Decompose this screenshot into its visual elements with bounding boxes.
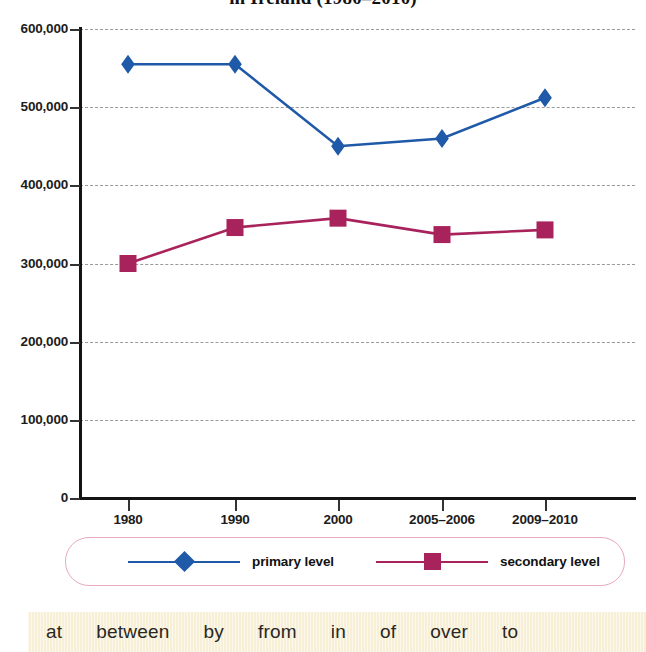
diamond-marker-icon — [228, 55, 242, 74]
series-secondary — [120, 210, 554, 272]
word-bank-item[interactable]: of — [380, 621, 396, 643]
word-bank-item[interactable]: in — [331, 621, 346, 643]
diamond-marker-icon — [173, 551, 194, 572]
legend-entry-secondary: secondary level — [376, 538, 600, 585]
series-line — [128, 64, 545, 146]
series-primary — [121, 55, 552, 156]
word-bank-item[interactable]: from — [258, 621, 297, 643]
square-marker-icon — [424, 553, 441, 570]
word-bank: atbetweenbyfrominofoverto — [28, 612, 646, 652]
word-bank-item[interactable]: between — [96, 621, 169, 643]
word-bank-item[interactable]: at — [46, 621, 62, 643]
line-chart-figure: 0100,000200,000300,000400,000500,000600,… — [0, 0, 646, 596]
diamond-marker-icon — [121, 55, 135, 74]
square-marker-icon — [537, 221, 554, 238]
square-marker-icon — [330, 210, 347, 227]
legend-swatch-secondary — [376, 552, 488, 572]
word-bank-item[interactable]: by — [204, 621, 224, 643]
chart-legend: primary level secondary level — [65, 537, 625, 586]
diamond-marker-icon — [435, 129, 449, 148]
square-marker-icon — [120, 255, 137, 272]
square-marker-icon — [227, 219, 244, 236]
legend-swatch-primary — [128, 552, 240, 572]
diamond-marker-icon — [538, 88, 552, 107]
word-bank-item[interactable]: to — [502, 621, 518, 643]
legend-label-primary: primary level — [252, 554, 334, 569]
diamond-marker-icon — [331, 137, 345, 156]
legend-label-secondary: secondary level — [500, 554, 600, 569]
data-series-layer — [0, 0, 646, 596]
square-marker-icon — [434, 226, 451, 243]
legend-entry-primary: primary level — [128, 538, 334, 585]
word-bank-item[interactable]: over — [430, 621, 468, 643]
